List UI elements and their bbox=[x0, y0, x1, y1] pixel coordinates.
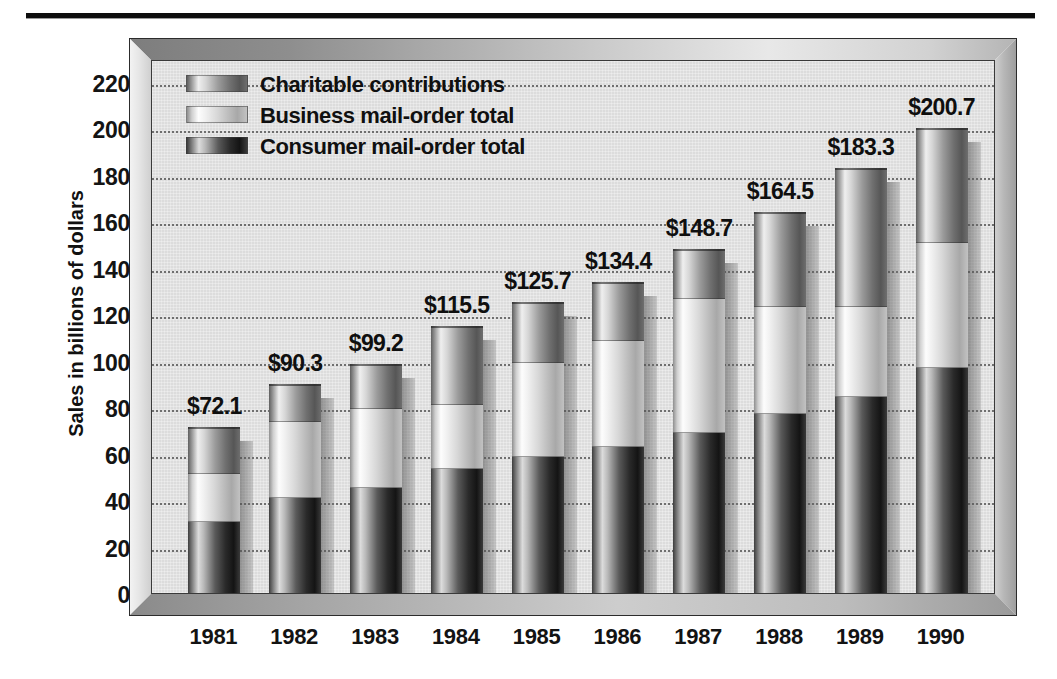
data-label-1989: $183.3 bbox=[801, 134, 921, 161]
segment-divider bbox=[754, 306, 806, 307]
legend-label-consumer: Consumer mail-order total bbox=[260, 131, 525, 162]
bar-shadow bbox=[806, 226, 819, 594]
segment-divider bbox=[592, 446, 644, 447]
frame-bevel-bottom bbox=[129, 594, 1017, 616]
data-label-1987: $148.7 bbox=[639, 215, 759, 242]
bar-1989[interactable] bbox=[835, 168, 887, 594]
bar-segment-charitable-1987[interactable] bbox=[673, 249, 725, 299]
frame-bevel-top bbox=[129, 38, 1017, 60]
segment-divider bbox=[188, 521, 240, 522]
bar-segment-business-1987[interactable] bbox=[673, 299, 725, 433]
bar-shadow bbox=[968, 142, 981, 594]
bar-1988[interactable] bbox=[754, 212, 806, 594]
bar-segment-consumer-1987[interactable] bbox=[673, 433, 725, 594]
plot-area: $72.1$90.3$99.2$115.5$125.7$134.4$148.7$… bbox=[151, 60, 995, 594]
bar-segment-business-1986[interactable] bbox=[592, 341, 644, 447]
bar-segment-charitable-1988[interactable] bbox=[754, 212, 806, 307]
bar-segment-business-1984[interactable] bbox=[431, 405, 483, 469]
bar-segment-consumer-1990[interactable] bbox=[916, 368, 968, 594]
x-axis-tick-1982: 1982 bbox=[249, 624, 339, 650]
bar-1981[interactable] bbox=[188, 427, 240, 594]
y-axis-tick-20: 20 bbox=[58, 538, 130, 561]
legend-item-business[interactable]: Business mail-order total bbox=[186, 100, 516, 131]
x-axis-tick-1984: 1984 bbox=[411, 624, 501, 650]
bar-top-edge bbox=[512, 302, 564, 304]
frame-bevel-left bbox=[129, 38, 151, 616]
x-axis-tick-labels: 1981198219831984198519861987198819891990 bbox=[151, 624, 995, 658]
legend-label-business: Business mail-order total bbox=[260, 100, 514, 131]
bar-1985[interactable] bbox=[512, 302, 564, 594]
data-label-1990: $200.7 bbox=[882, 94, 995, 121]
data-label-1984: $115.5 bbox=[397, 292, 517, 319]
bar-segment-charitable-1982[interactable] bbox=[269, 384, 321, 422]
legend-item-charitable[interactable]: Charitable contributions bbox=[186, 69, 516, 100]
bar-segment-business-1983[interactable] bbox=[350, 409, 402, 488]
bar-top-edge bbox=[350, 364, 402, 366]
segment-divider bbox=[350, 487, 402, 488]
legend: Charitable contributionsBusiness mail-or… bbox=[186, 69, 516, 162]
bar-top-edge bbox=[188, 427, 240, 429]
bar-segment-charitable-1981[interactable] bbox=[188, 427, 240, 475]
bar-shadow bbox=[644, 296, 657, 594]
segment-divider bbox=[350, 408, 402, 409]
bar-segment-business-1988[interactable] bbox=[754, 307, 806, 414]
bar-segment-consumer-1989[interactable] bbox=[835, 397, 887, 594]
segment-divider bbox=[673, 298, 725, 299]
bar-top-edge bbox=[673, 249, 725, 251]
data-label-1983: $99.2 bbox=[316, 330, 436, 357]
bar-top-edge bbox=[835, 168, 887, 170]
x-axis-tick-1987: 1987 bbox=[653, 624, 743, 650]
bar-1986[interactable] bbox=[592, 282, 644, 594]
bar-1984[interactable] bbox=[431, 326, 483, 594]
x-axis-tick-1981: 1981 bbox=[168, 624, 258, 650]
segment-divider bbox=[431, 404, 483, 405]
bar-segment-business-1982[interactable] bbox=[269, 422, 321, 497]
segment-divider bbox=[916, 242, 968, 243]
y-axis-tick-200: 200 bbox=[58, 119, 130, 142]
x-axis-tick-1985: 1985 bbox=[492, 624, 582, 650]
bar-1990[interactable] bbox=[916, 128, 968, 594]
bar-segment-consumer-1983[interactable] bbox=[350, 488, 402, 594]
bar-segment-charitable-1983[interactable] bbox=[350, 364, 402, 410]
bar-segment-consumer-1988[interactable] bbox=[754, 414, 806, 594]
segment-divider bbox=[835, 306, 887, 307]
bar-top-edge bbox=[754, 212, 806, 214]
bar-segment-consumer-1985[interactable] bbox=[512, 457, 564, 594]
bar-segment-consumer-1984[interactable] bbox=[431, 469, 483, 594]
bar-1983[interactable] bbox=[350, 364, 402, 594]
bar-segment-consumer-1981[interactable] bbox=[188, 522, 240, 594]
bar-segment-business-1985[interactable] bbox=[512, 363, 564, 457]
bar-segment-charitable-1985[interactable] bbox=[512, 302, 564, 363]
bar-segment-charitable-1989[interactable] bbox=[835, 168, 887, 307]
bar-segment-consumer-1982[interactable] bbox=[269, 498, 321, 594]
bar-top-edge bbox=[431, 326, 483, 328]
legend-item-consumer[interactable]: Consumer mail-order total bbox=[186, 131, 516, 162]
segment-divider bbox=[512, 362, 564, 363]
legend-swatch-consumer bbox=[186, 137, 248, 154]
x-axis-tick-1983: 1983 bbox=[330, 624, 420, 650]
data-label-1988: $164.5 bbox=[720, 178, 840, 205]
bar-segment-charitable-1990[interactable] bbox=[916, 128, 968, 243]
bar-shadow bbox=[240, 441, 253, 594]
segment-divider bbox=[269, 421, 321, 422]
bar-1982[interactable] bbox=[269, 384, 321, 594]
x-axis-tick-1986: 1986 bbox=[572, 624, 662, 650]
legend-swatch-business bbox=[186, 106, 248, 123]
bar-segment-business-1989[interactable] bbox=[835, 307, 887, 396]
bar-1987[interactable] bbox=[673, 249, 725, 594]
x-axis-tick-1989: 1989 bbox=[815, 624, 905, 650]
bar-segment-consumer-1986[interactable] bbox=[592, 447, 644, 594]
segment-divider bbox=[512, 456, 564, 457]
bar-shadow bbox=[725, 263, 738, 594]
bar-shadow bbox=[887, 182, 900, 594]
bar-segment-business-1981[interactable] bbox=[188, 474, 240, 522]
legend-swatch-charitable bbox=[186, 75, 248, 92]
segment-divider bbox=[673, 432, 725, 433]
y-axis-tick-180: 180 bbox=[58, 166, 130, 189]
chart-page: Sales in billions of dollars 02040608010… bbox=[0, 0, 1057, 679]
bar-segment-charitable-1984[interactable] bbox=[431, 326, 483, 405]
bar-segment-charitable-1986[interactable] bbox=[592, 282, 644, 341]
y-axis-tick-80: 80 bbox=[58, 398, 130, 421]
bar-segment-business-1990[interactable] bbox=[916, 243, 968, 367]
bar-top-edge bbox=[592, 282, 644, 284]
